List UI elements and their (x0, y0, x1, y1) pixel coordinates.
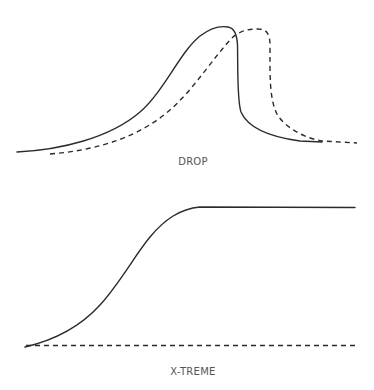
xtreme-chart-plot (0, 195, 374, 390)
xtreme-label: X-TREME (0, 366, 374, 377)
drop-chart-panel: DROP (0, 0, 374, 195)
drop-label: DROP (0, 156, 374, 167)
drop-dashed-curve (50, 29, 357, 154)
drop-solid-curve (17, 27, 322, 152)
xtreme-chart-panel: X-TREME (0, 195, 374, 390)
xtreme-solid-curve (25, 207, 355, 347)
